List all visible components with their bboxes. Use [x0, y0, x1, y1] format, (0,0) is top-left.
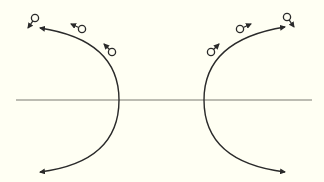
velocity-arrow-icon	[243, 24, 251, 28]
velocity-arrow-icon	[214, 44, 219, 49]
particle-with-velocity-icon	[236, 24, 251, 33]
particle-with-velocity-icon	[104, 44, 116, 56]
velocity-arrow-icon	[104, 44, 109, 49]
particle-with-velocity-icon	[71, 24, 86, 33]
trajectory-diagram	[0, 0, 324, 182]
particle-with-velocity-icon	[28, 14, 39, 28]
particle-with-velocity-icon	[283, 13, 294, 27]
velocity-arrow-icon	[71, 24, 79, 28]
particle-with-velocity-icon	[207, 44, 219, 56]
velocity-arrow-icon	[28, 21, 33, 28]
velocity-arrow-icon	[289, 20, 294, 27]
